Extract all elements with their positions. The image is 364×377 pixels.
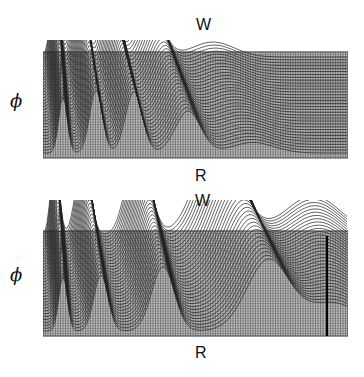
bottom-surface-plot	[43, 200, 348, 340]
top-w-label: W	[196, 17, 211, 33]
bottom-wave-surface	[43, 200, 348, 340]
top-r-label: R	[195, 168, 207, 184]
top-phi-label: ϕ	[10, 92, 22, 110]
top-surface-plot	[43, 40, 348, 160]
bottom-phi-label: ϕ	[10, 266, 22, 284]
bottom-r-label: R	[195, 345, 207, 361]
top-wave-surface	[43, 40, 348, 160]
